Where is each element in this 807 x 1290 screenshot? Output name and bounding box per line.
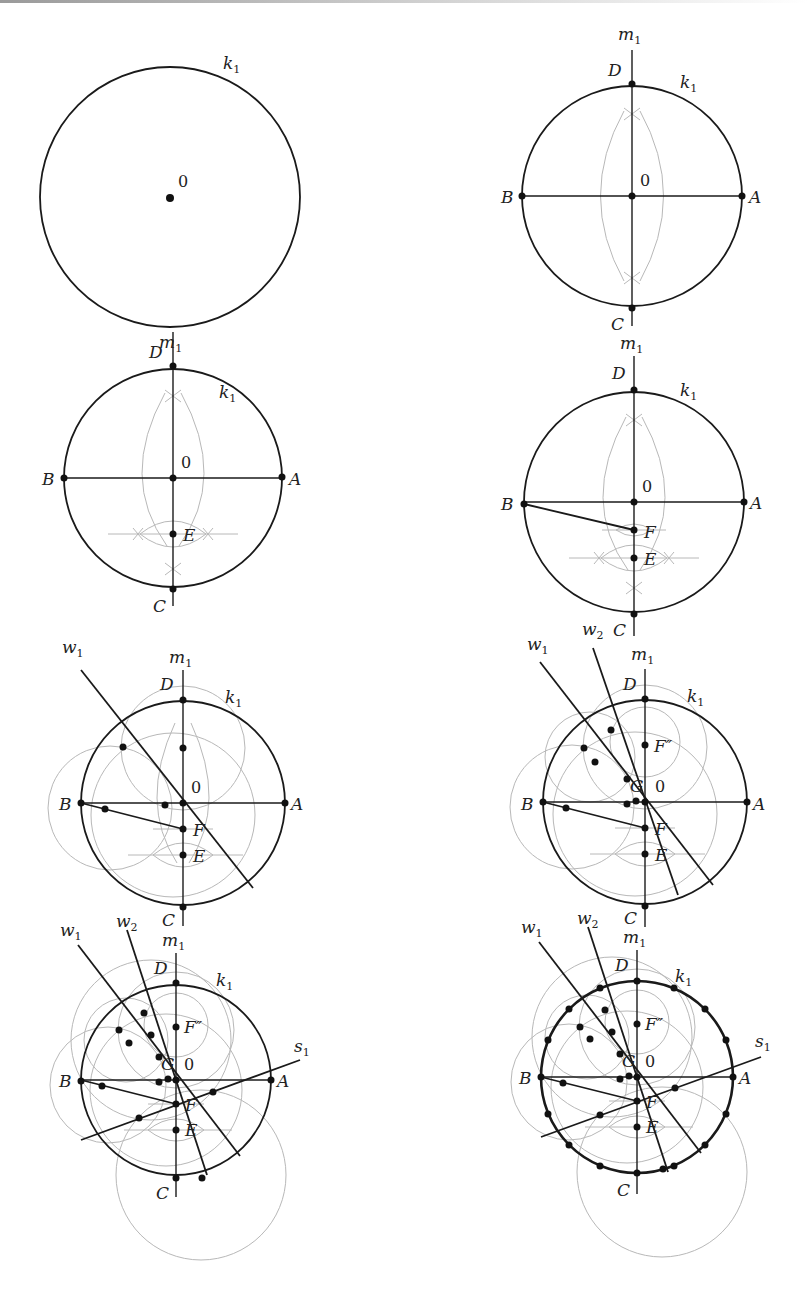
circle-label: k1 <box>687 686 704 709</box>
axis-label: m1 <box>618 24 641 47</box>
midpoint-construction <box>128 829 243 867</box>
center-label: 0 <box>181 453 191 472</box>
label-E: E <box>643 549 657 569</box>
label-A: A <box>747 187 761 207</box>
label-F-double-prime: F″ <box>183 1017 203 1037</box>
label-G: G <box>161 1054 175 1074</box>
label-F: F <box>654 819 668 839</box>
panel-6: 0 A B C D E F F″ G k1 m1 w1 w2 <box>510 619 765 928</box>
midpoint-construction <box>124 1104 232 1141</box>
label-F: F <box>643 522 657 542</box>
label-B: B <box>500 187 514 207</box>
panel-8: 0 A B C D E F F″ G k1 m1 w1 w2 s1 <box>511 908 771 1257</box>
circle-label: k1 <box>223 53 240 76</box>
aux-circle-mid <box>91 733 255 897</box>
label-A: A <box>751 794 765 814</box>
label-B: B <box>58 794 72 814</box>
axis-label: m1 <box>623 927 646 950</box>
label-A: A <box>289 794 303 814</box>
panel-4: 0 A B C D E F k1 m1 <box>500 333 762 640</box>
line-label-w1: w1 <box>521 917 543 940</box>
axis-label: m1 <box>169 647 192 670</box>
center-label: 0 <box>191 778 201 797</box>
label-F: F <box>192 820 206 840</box>
axis-label: m1 <box>631 644 654 667</box>
label-D: D <box>159 674 174 694</box>
label-D: D <box>622 674 637 694</box>
circle-label: k1 <box>680 380 697 403</box>
label-F: F <box>184 1095 198 1115</box>
label-D: D <box>153 958 168 978</box>
label-A: A <box>748 493 762 513</box>
label-F-double-prime: F″ <box>653 736 673 756</box>
midpoint-construction <box>585 1101 693 1138</box>
circle-label: k1 <box>225 687 242 710</box>
panel-5: 0 A B C D E F k1 m1 w1 <box>48 637 303 930</box>
panel-2: 0 A B C D k1 m1 <box>500 24 761 334</box>
label-B: B <box>520 794 534 814</box>
center-label: 0 <box>642 477 652 496</box>
line-label-w1: w1 <box>60 920 82 943</box>
circle-label: k1 <box>219 382 236 405</box>
center-label: 0 <box>640 171 650 190</box>
label-B: B <box>518 1068 532 1088</box>
midpoint-construction <box>590 828 705 866</box>
center-label: 0 <box>184 1055 194 1074</box>
line-label-s1: s1 <box>294 1036 310 1059</box>
label-B: B <box>41 469 55 489</box>
label-E: E <box>192 846 206 866</box>
circle-label: k1 <box>216 970 233 993</box>
line-label-w1: w1 <box>527 634 549 657</box>
label-C: C <box>156 1183 169 1203</box>
axis-label: m1 <box>162 930 185 953</box>
line-label-w2: w2 <box>582 619 604 642</box>
line-label-w1: w1 <box>62 637 84 660</box>
aux-circle-upper-left <box>84 998 168 1082</box>
label-C: C <box>611 314 624 334</box>
axis-label: m1 <box>620 333 643 356</box>
construction-figure: 0 k1 0 A B C D k1 m1 0 A B C D E k1 m1 <box>0 0 807 1290</box>
panel-1: 0 k1 <box>40 53 300 327</box>
label-C: C <box>153 596 166 616</box>
center-label: 0 <box>655 777 665 796</box>
center-label: 0 <box>645 1052 655 1071</box>
line-label-w2: w2 <box>116 911 138 934</box>
label-A: A <box>275 1071 289 1091</box>
label-D: D <box>614 955 629 975</box>
label-F-double-prime: F″ <box>644 1014 664 1034</box>
aux-circle-upper-left <box>545 995 629 1079</box>
label-E: E <box>184 1120 198 1140</box>
label-C: C <box>613 620 626 640</box>
line-label-w2: w2 <box>577 908 599 931</box>
panel-3: 0 A B C D E k1 m1 <box>41 332 301 616</box>
center-point <box>166 194 174 202</box>
label-G: G <box>622 1051 636 1071</box>
label-B: B <box>500 494 514 514</box>
label-E: E <box>645 1117 659 1137</box>
label-B: B <box>58 1071 72 1091</box>
label-F: F <box>645 1092 659 1112</box>
circle-label: k1 <box>680 72 697 95</box>
label-A: A <box>737 1068 751 1088</box>
circle-label: k1 <box>675 966 692 989</box>
center-label: 0 <box>178 172 188 191</box>
label-D: D <box>611 363 626 383</box>
axis-label: m1 <box>159 332 182 355</box>
label-E: E <box>654 845 668 865</box>
label-C: C <box>162 910 175 930</box>
line-label-s1: s1 <box>755 1031 771 1054</box>
label-C: C <box>617 1180 630 1200</box>
label-C: C <box>624 908 637 928</box>
segment-BF <box>524 504 634 530</box>
label-A: A <box>287 469 301 489</box>
label-G: G <box>630 776 644 796</box>
label-D: D <box>607 60 622 80</box>
label-E: E <box>182 525 196 545</box>
panel-7: 0 A B C D E F F″ G k1 m1 w1 w2 s1 <box>50 911 310 1260</box>
